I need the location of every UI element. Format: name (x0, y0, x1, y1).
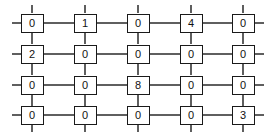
grid-node-value: 0 (29, 17, 35, 28)
grid-node-value: 0 (240, 48, 246, 59)
grid-node-value: 3 (240, 110, 246, 121)
grid-node-value: 1 (82, 17, 88, 28)
grid-network-diagram: 0 1 0 4 0 2 0 0 0 0 0 0 8 0 0 0 (0, 0, 274, 136)
grid-node-value: 0 (240, 79, 246, 90)
grid-node-value: 0 (82, 48, 88, 59)
grid-node-r2c3[interactable]: 0 (127, 45, 150, 64)
grid-node-value: 0 (29, 110, 35, 121)
grid-node-value: 4 (188, 17, 194, 28)
grid-node-value: 0 (188, 110, 194, 121)
grid-node-r4c4[interactable]: 0 (180, 106, 203, 125)
grid-node-value: 0 (135, 110, 141, 121)
grid-node-r4c3[interactable]: 0 (127, 106, 150, 125)
grid-node-value: 0 (29, 79, 35, 90)
grid-node-r3c1[interactable]: 0 (21, 76, 44, 95)
grid-node-r4c1[interactable]: 0 (21, 106, 44, 125)
grid-node-value: 0 (135, 17, 141, 28)
grid-node-r2c5[interactable]: 0 (232, 45, 255, 64)
grid-node-r3c2[interactable]: 0 (74, 76, 97, 95)
grid-node-value: 0 (188, 79, 194, 90)
grid-node-r2c1[interactable]: 2 (21, 45, 44, 64)
grid-node-r4c5[interactable]: 3 (232, 106, 255, 125)
grid-node-r1c4[interactable]: 4 (180, 14, 203, 33)
grid-node-value: 0 (188, 48, 194, 59)
grid-node-r2c2[interactable]: 0 (74, 45, 97, 64)
grid-node-r1c5[interactable]: 0 (232, 14, 255, 33)
grid-node-r1c2[interactable]: 1 (74, 14, 97, 33)
grid-node-r3c4[interactable]: 0 (180, 76, 203, 95)
grid-node-r3c5[interactable]: 0 (232, 76, 255, 95)
grid-node-value: 2 (29, 48, 35, 59)
grid-node-value: 0 (240, 17, 246, 28)
grid-node-r2c4[interactable]: 0 (180, 45, 203, 64)
grid-node-value: 0 (82, 79, 88, 90)
grid-node-value: 0 (135, 48, 141, 59)
grid-node-value: 8 (135, 79, 141, 90)
grid-node-r4c2[interactable]: 0 (74, 106, 97, 125)
grid-node-value: 0 (82, 110, 88, 121)
grid-node-r3c3[interactable]: 8 (127, 76, 150, 95)
grid-node-r1c3[interactable]: 0 (127, 14, 150, 33)
grid-node-r1c1[interactable]: 0 (21, 14, 44, 33)
